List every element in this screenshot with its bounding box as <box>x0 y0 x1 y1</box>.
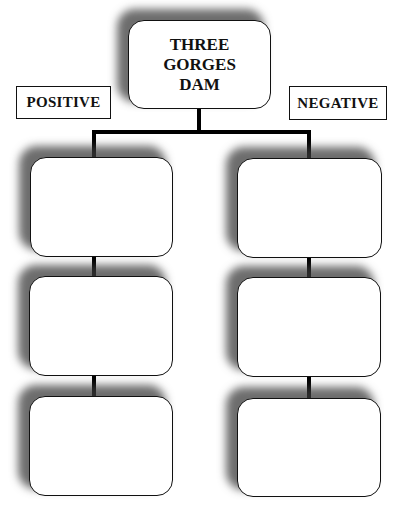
positive-label-text: POSITIVE <box>26 94 100 111</box>
negative-label: NEGATIVE <box>289 86 387 120</box>
connector-left-2-3 <box>92 374 96 397</box>
positive-label: POSITIVE <box>16 86 111 119</box>
title-box: THREE GORGES DAM <box>128 20 271 109</box>
negative-box-1[interactable] <box>237 158 382 258</box>
title-line-1: THREE <box>170 35 230 55</box>
connector-left-1-2 <box>92 255 96 277</box>
connector-horizontal-bar <box>92 130 311 134</box>
connector-right-2-3 <box>307 375 311 399</box>
title-line-3: DAM <box>179 75 220 95</box>
positive-box-2[interactable] <box>29 276 173 376</box>
negative-label-text: NEGATIVE <box>297 95 378 112</box>
cropped-heading-text <box>100 0 300 3</box>
positive-box-1[interactable] <box>30 157 173 257</box>
connector-right-1-2 <box>307 256 311 278</box>
negative-box-2[interactable] <box>237 277 381 377</box>
connector-left-drop <box>92 130 96 158</box>
title-line-2: GORGES <box>163 55 236 75</box>
positive-box-3[interactable] <box>29 396 173 496</box>
connector-right-drop <box>307 130 311 159</box>
negative-box-3[interactable] <box>237 398 381 497</box>
